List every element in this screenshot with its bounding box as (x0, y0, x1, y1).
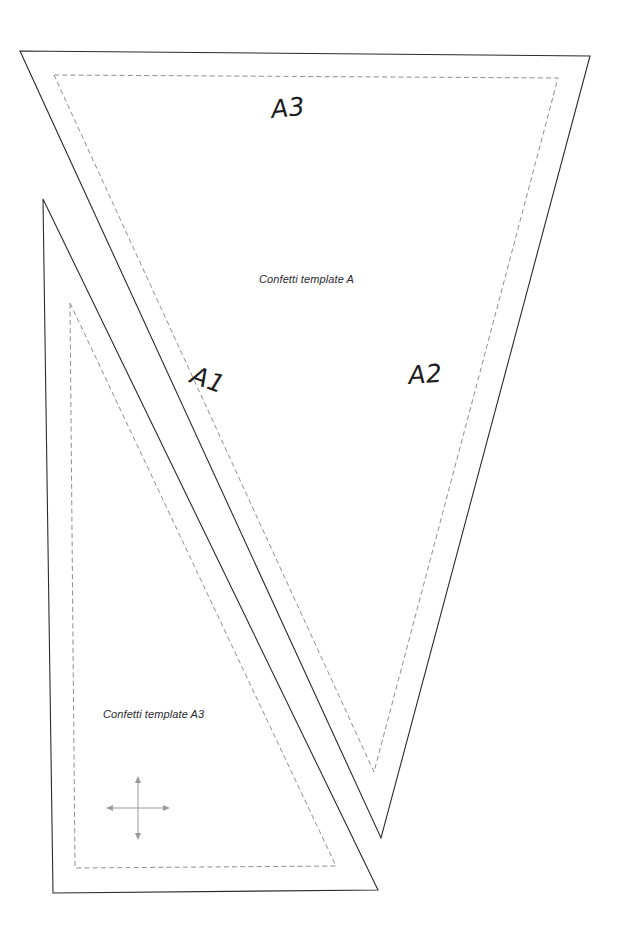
caption-template-a3: Confetti template A3 (103, 708, 205, 720)
pattern-sheet: A3 A1 A2 Confetti template A Confetti te… (0, 0, 620, 939)
piece-label-a3: A3 (268, 92, 307, 125)
pattern-drawing: A3 A1 A2 Confetti template A Confetti te… (0, 0, 620, 939)
grain-arrowhead-left (106, 805, 113, 811)
caption-template-a: Confetti template A (259, 273, 354, 285)
pattern-piece-template-a3 (43, 199, 378, 893)
cut-line-template-a3 (43, 199, 378, 893)
grain-direction-icon (106, 776, 170, 840)
piece-label-a1: A1 (185, 360, 229, 400)
grain-arrowhead-right (163, 805, 170, 811)
seam-line-template-a (54, 75, 558, 772)
piece-label-a2: A2 (405, 359, 443, 390)
grain-arrowhead-down (135, 833, 141, 840)
grain-arrowhead-up (135, 776, 141, 783)
